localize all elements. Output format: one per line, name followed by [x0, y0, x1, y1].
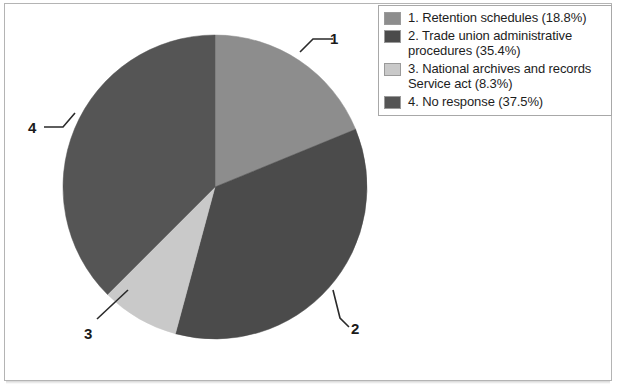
legend-item-label: 1. Retention schedules (18.8%) — [408, 10, 586, 25]
leader-line-2 — [333, 290, 349, 327]
legend-swatch-icon — [384, 12, 401, 25]
chart-screenshot: 1 2 3 4 1. Retention schedules (18.8%) 2… — [0, 0, 618, 388]
legend-item-label: 2. Trade union administrative procedures… — [408, 28, 606, 58]
callout-label-1: 1 — [330, 30, 338, 47]
callout-label-4: 4 — [28, 119, 36, 136]
legend-item: 4. No response (37.5%) — [384, 94, 606, 109]
legend-swatch-icon — [384, 96, 401, 109]
leader-line-4 — [44, 113, 75, 127]
legend-item: 3. National archives and records Service… — [384, 61, 606, 91]
legend-item: 2. Trade union administrative procedures… — [384, 28, 606, 58]
callout-label-3: 3 — [84, 325, 92, 342]
legend-item-label: 3. National archives and records Service… — [408, 61, 606, 91]
scan-shadow — [6, 381, 610, 384]
leader-line-1 — [300, 39, 333, 52]
pie-slices-group — [63, 35, 367, 339]
pie-chart-svg — [0, 0, 380, 380]
legend-swatch-icon — [384, 30, 401, 43]
legend-swatch-icon — [384, 63, 401, 76]
legend-item-label: 4. No response (37.5%) — [408, 94, 543, 109]
legend-item: 1. Retention schedules (18.8%) — [384, 10, 606, 25]
chart-legend: 1. Retention schedules (18.8%) 2. Trade … — [378, 5, 612, 116]
callout-label-2: 2 — [351, 320, 359, 337]
pie-chart-area: 1 2 3 4 — [0, 0, 380, 380]
